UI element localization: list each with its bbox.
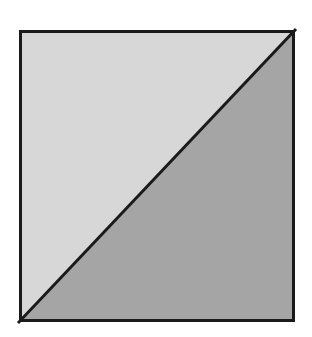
geometric-figure: [0, 0, 312, 337]
figure-container: [0, 0, 312, 337]
